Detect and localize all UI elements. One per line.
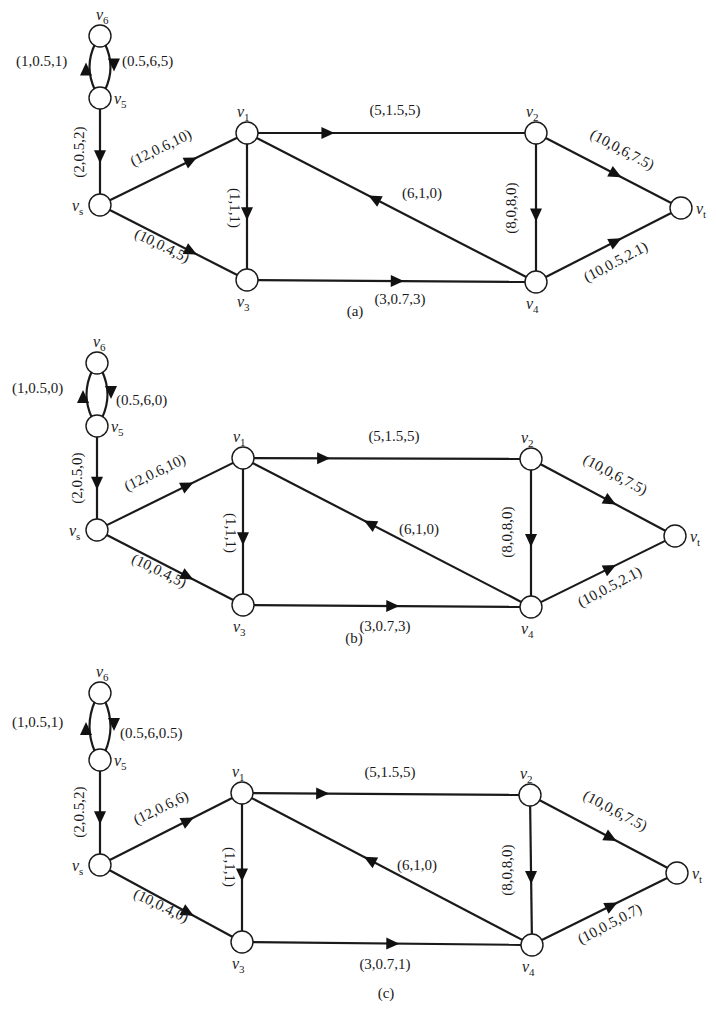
edge-v6-v5: (0.5,6,0) [102,371,167,418]
edge-line [105,701,111,752]
node-v2: v2 [520,429,542,470]
node-v2: v2 [525,103,547,144]
node-vt: vt [664,525,700,548]
edge-v4-vt: (10,0.5,2.1) [541,541,665,611]
edge-v6-v5: (0.5,6,5) [105,44,173,90]
vertex-label: vs [72,197,83,217]
node-circle [86,352,108,374]
node-circle [520,596,542,618]
arrowhead-icon [317,452,330,464]
edge-label: (12,0.6,10) [122,451,189,495]
node-v6: v6 [89,6,111,47]
edge-label: (0.5,6,0.5) [120,725,183,742]
vertex-label: vs [69,522,80,542]
vertex-label: v6 [93,333,106,353]
node-circle [666,862,688,884]
vertex-label: v1 [232,763,245,783]
edge-label: (1,0.5,1) [12,714,63,731]
edge-vs-v1: (12,0.6,10) [107,451,233,525]
edge-v4-v1: (6,1,0) [253,463,521,602]
edge-label: (2,0.5,2) [71,786,88,837]
node-circle [525,122,547,144]
edge-v5-vs: (2,0.5,0) [69,437,103,519]
edge-label: (6,1,0) [397,857,437,874]
arrowhead-icon [525,871,537,884]
edge-v5-v6: (1,0.5,1) [16,44,95,90]
arrowhead-icon [94,150,106,163]
edge-v2-vt: (10,0,6,7.5) [541,451,666,531]
edge-label: (5,1.5,5) [368,428,419,445]
node-circle [520,448,542,470]
vertex-label: v3 [237,293,250,313]
panel-caption: (c) [378,985,395,1002]
node-circle [86,519,108,541]
vertex-label: vt [690,528,700,548]
node-circle [89,854,111,876]
edge-label: (8,0,8,0) [499,844,516,895]
vertex-label: v5 [114,90,127,110]
vertex-label: vt [696,200,706,220]
node-v2: v2 [519,765,541,806]
node-v3: v3 [236,269,258,313]
vertex-label: vs [72,857,83,877]
panel-a: (1,0.5,1)(0.5,6,5)(2,0.5,2)(12,0.6,10)(1… [16,6,706,320]
vertex-label: v3 [233,618,246,638]
edge-label: (3,0.7,3) [359,618,410,635]
node-circle [521,934,543,956]
edge-v4-vt: (10,0.5,2.1) [546,213,671,286]
panel-caption: (a) [347,303,364,320]
edge-label: (2,0.5,2) [71,126,88,177]
node-v5: v5 [86,415,124,438]
edge-label: (3,0.7,1) [359,956,410,973]
vertex-label: v6 [96,6,109,26]
edge-label: (10,0.4,5) [132,225,192,266]
edge-v2-v4: (8,0,8,0) [499,470,537,596]
edge-label: (1,1,1) [226,188,243,228]
node-circle [89,682,111,704]
figure-panels: (1,0.5,1)(0.5,6,5)(2,0.5,2)(12,0.6,10)(1… [12,6,706,1002]
edge-line [87,371,93,418]
edge-label: (2,0.5,0) [69,452,86,503]
edge-v1-v2: (5,1.5,5) [254,428,520,464]
node-v5: v5 [89,87,127,110]
node-vs: vs [72,854,111,877]
node-v4: v4 [521,934,543,978]
edge-vs-v1: (12,0.6,10) [110,126,237,200]
vertex-label: v1 [237,103,250,123]
node-circle [86,415,108,437]
arrowhead-icon [321,127,334,139]
node-vt: vt [670,197,706,220]
edge-vs-v3: (10,0.4,5) [110,210,237,275]
edge-label: (1,0.5,0) [12,380,63,397]
edge-v4-v1: (6,1,0) [257,138,526,277]
edge-label: (0.5,6,0) [116,392,167,409]
vertex-label: v4 [526,295,539,315]
edge-v2-vt: (10,0,6,7.5) [540,787,668,868]
node-circle [89,749,111,771]
node-vs: vs [72,194,111,217]
node-circle [231,782,253,804]
edge-line [257,138,526,277]
edge-vs-v3: (10,0.4,0) [110,870,233,937]
edge-line [90,701,96,752]
edge-label: (3,0.7,3) [374,291,425,308]
edge-v5-vs: (2,0.5,2) [71,109,106,194]
vertex-label: v4 [522,958,535,978]
edge-v1-v3: (1,1,1) [222,469,249,594]
vertex-label: v2 [526,103,539,123]
edge-v5-v6: (1,0.5,1) [12,701,95,752]
arrowhead-icon [91,477,103,490]
node-v3: v3 [232,594,254,638]
edge-line [252,798,523,940]
node-v1: v1 [236,103,258,144]
arrowhead-icon [525,534,537,547]
vertex-label: v4 [521,620,534,640]
edge-v1-v3: (1,1,1) [221,804,248,931]
edge-v1-v2: (5,1.5,5) [253,764,519,800]
node-v5: v5 [89,749,127,772]
edge-v4-v1: (6,1,0) [252,798,523,940]
edge-v6-v5: (0.5,6,0.5) [105,701,183,752]
edge-v2-v4: (8,0,8,0) [499,806,537,934]
edge-line [102,371,108,418]
edge-v5-vs: (2,0.5,2) [71,771,106,854]
